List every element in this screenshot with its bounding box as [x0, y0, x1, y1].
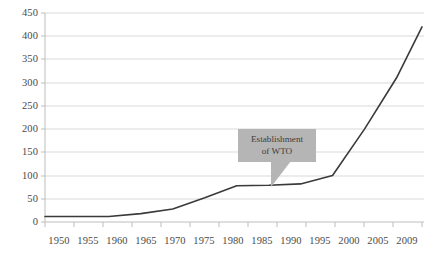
- y-tick-350: 350: [4, 53, 38, 64]
- gridlines: [45, 13, 424, 199]
- y-tick-200: 200: [4, 123, 38, 134]
- chart-container: 450 400 350 300 250 200 150 100 50 0 195…: [0, 0, 431, 263]
- data-series-line: [45, 27, 422, 217]
- y-tick-450: 450: [4, 7, 38, 18]
- annotation-line-2: of WTO: [262, 146, 293, 158]
- annotation-establishment-of-wto: Establishment of WTO: [238, 129, 316, 162]
- y-tick-250: 250: [4, 100, 38, 111]
- x-axis-ticks: [45, 222, 422, 227]
- x-tick-2009: 2009: [390, 235, 424, 246]
- y-tick-50: 50: [4, 193, 38, 204]
- annotation-line-1: Establishment: [251, 134, 303, 146]
- y-tick-0: 0: [4, 216, 38, 227]
- annotation-pointer-tail: [271, 161, 300, 187]
- y-tick-300: 300: [4, 77, 38, 88]
- line-chart-plot: [0, 0, 431, 263]
- y-axis-ticks: [41, 13, 45, 222]
- y-tick-150: 150: [4, 146, 38, 157]
- y-tick-400: 400: [4, 30, 38, 41]
- y-tick-100: 100: [4, 170, 38, 181]
